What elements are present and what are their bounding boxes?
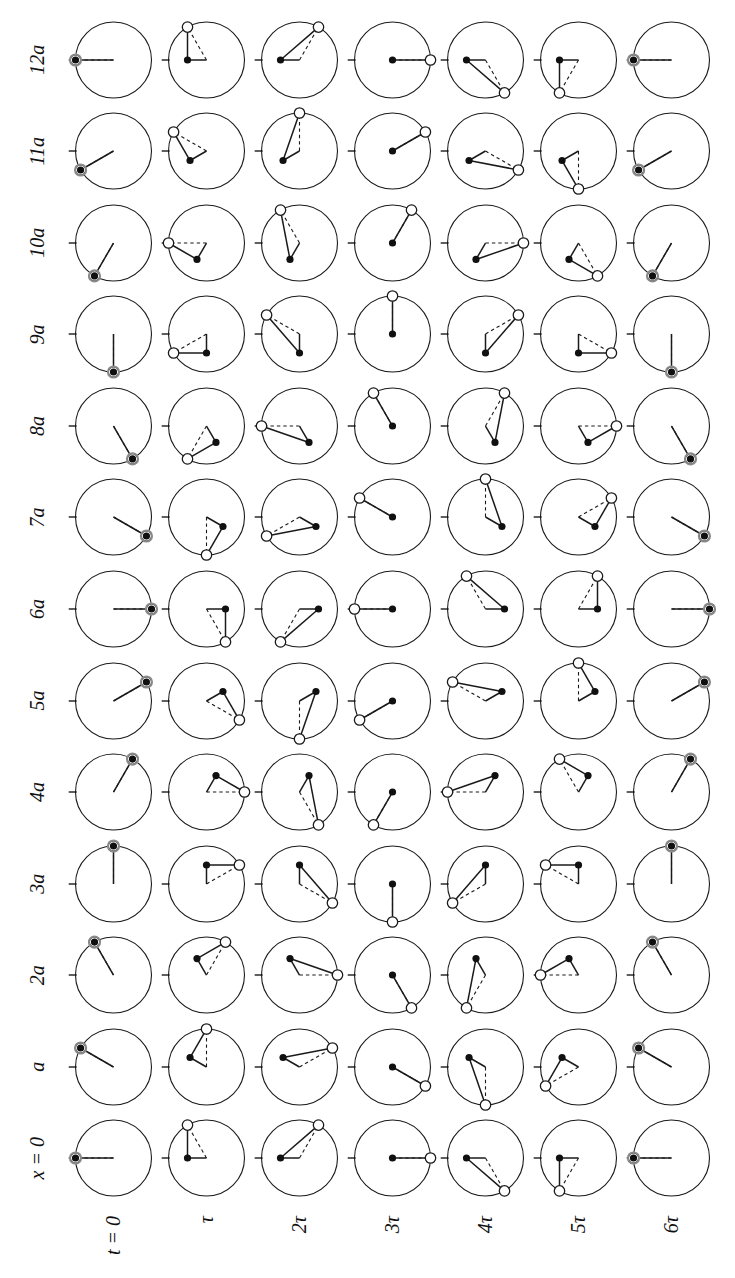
phasor-diagram: [158, 195, 254, 291]
phasor-diagram: [437, 653, 533, 749]
phasor-cell: [344, 378, 440, 474]
open-circle-marker: [605, 348, 615, 358]
open-circle-marker: [539, 859, 549, 869]
phasor-diagram: [623, 103, 719, 199]
particle-dot: [593, 605, 600, 612]
phasor-diagram: [158, 927, 254, 1023]
phasor-cell: [158, 927, 254, 1023]
row-label-t: 5τ: [567, 1216, 587, 1278]
phasor-cell: [344, 653, 440, 749]
phasor-diagram: [344, 286, 440, 382]
phasor-cell: [437, 195, 533, 291]
phasor-cell: [437, 378, 533, 474]
phasor-cell: [344, 744, 440, 840]
phasor-cell: [251, 927, 347, 1023]
particle-dot: [183, 1155, 190, 1162]
phasor-diagram: [65, 653, 161, 749]
dot-to-marker-arm: [466, 959, 476, 1008]
open-circle-marker: [181, 454, 191, 464]
phasor-cell: [65, 836, 161, 932]
particle-dot: [388, 1063, 395, 1070]
open-circle-marker: [610, 421, 620, 431]
open-circle-marker: [367, 820, 377, 830]
phasor-circle-outline: [168, 571, 244, 647]
reference-radius-dashed: [206, 609, 225, 642]
phasor-diagram: [530, 744, 626, 840]
phasor-circle-outline: [75, 754, 151, 830]
phasor-cell: [344, 1110, 440, 1206]
open-circle-marker: [167, 348, 177, 358]
phasor-cell: [158, 1019, 254, 1115]
dot-to-marker-arm: [280, 27, 318, 60]
column-label-x: 6a: [26, 563, 46, 655]
phasor-cell: [251, 103, 347, 199]
particle-dot: [276, 56, 283, 63]
phasor-diagram: [437, 378, 533, 474]
dot-to-marker-arm: [280, 609, 318, 642]
phasor-cell: [65, 1019, 161, 1115]
open-circle-marker: [441, 787, 451, 797]
phasor-cell: [530, 927, 626, 1023]
open-circle-marker: [260, 531, 270, 541]
phasor-diagram: [344, 195, 440, 291]
particle-dot: [185, 1054, 192, 1061]
phasor-cell: [437, 744, 533, 840]
phasor-diagram: [65, 469, 161, 565]
particle-dot: [304, 439, 311, 446]
phasor-cell: [344, 1019, 440, 1115]
phasor-cell: [65, 378, 161, 474]
phasor-cell: [65, 469, 161, 565]
open-circle-marker: [353, 714, 363, 724]
phasor-circle-outline: [75, 479, 151, 555]
dot-to-marker-arm: [466, 60, 504, 93]
phasor-cell: [251, 12, 347, 108]
phasor-diagram: [530, 927, 626, 1023]
column-label-x: 7a: [26, 472, 46, 564]
open-circle-marker: [238, 787, 248, 797]
particle-dot: [574, 350, 581, 357]
open-circle-marker: [219, 637, 229, 647]
open-circle-marker: [572, 657, 582, 667]
phasor-diagram: [65, 744, 161, 840]
phasor-diagram: [623, 195, 719, 291]
dot-to-marker-arm: [266, 527, 315, 537]
phasor-cell: [158, 378, 254, 474]
open-circle-marker: [162, 238, 172, 248]
figure-root: x = 0a2a3a4a5a6a7a8a9a10a11a12at = 0τ2τ3…: [0, 0, 735, 1278]
phasor-cell: [251, 561, 347, 657]
phasor-cell: [437, 1019, 533, 1115]
open-circle-marker: [200, 550, 210, 560]
phasor-diagram: [251, 103, 347, 199]
open-circle-marker: [181, 22, 191, 32]
open-circle-marker: [424, 55, 434, 65]
phasor-diagram: [65, 378, 161, 474]
open-circle-marker: [419, 127, 429, 137]
phasor-cell: [251, 286, 347, 382]
row-label-t: 4τ: [474, 1216, 494, 1278]
open-circle-marker: [274, 205, 284, 215]
phasor-diagram: [344, 653, 440, 749]
phasor-cell: [530, 744, 626, 840]
phasor-cell: [530, 653, 626, 749]
particle-dot: [388, 1155, 395, 1162]
phasor-diagram: [623, 653, 719, 749]
phasor-cell: [65, 653, 161, 749]
phasor-diagram: [65, 195, 161, 291]
open-circle-marker: [553, 754, 563, 764]
phasor-circle-outline: [633, 663, 709, 739]
dot-to-marker-arm: [280, 210, 290, 259]
phasor-cell: [530, 561, 626, 657]
particle-dot: [388, 605, 395, 612]
phasor-diagram: [251, 286, 347, 382]
phasor-cell: [623, 469, 719, 565]
phasor-circle-outline: [261, 754, 337, 830]
phasor-cell: [251, 836, 347, 932]
open-circle-marker: [233, 859, 243, 869]
open-circle-marker: [200, 1024, 210, 1034]
phasor-diagram: [437, 1019, 533, 1115]
particle-dot: [462, 1155, 469, 1162]
particle-dot: [388, 788, 395, 795]
particle-dot: [278, 1054, 285, 1061]
phasor-diagram: [251, 378, 347, 474]
phasor-circle-outline: [633, 754, 709, 830]
